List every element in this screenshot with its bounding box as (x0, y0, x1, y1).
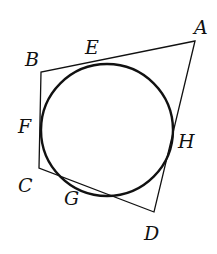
label-G: G (64, 187, 79, 209)
label-A: A (192, 16, 208, 38)
label-H: H (177, 130, 195, 152)
geometry-diagram: A B C D E F G H (0, 0, 217, 254)
label-B: B (24, 48, 39, 70)
label-C: C (18, 174, 33, 196)
quadrilateral-ABCD (39, 41, 195, 212)
inscribed-circle (41, 64, 173, 196)
label-D: D (143, 222, 159, 244)
label-F: F (17, 115, 32, 137)
label-E: E (84, 36, 99, 58)
